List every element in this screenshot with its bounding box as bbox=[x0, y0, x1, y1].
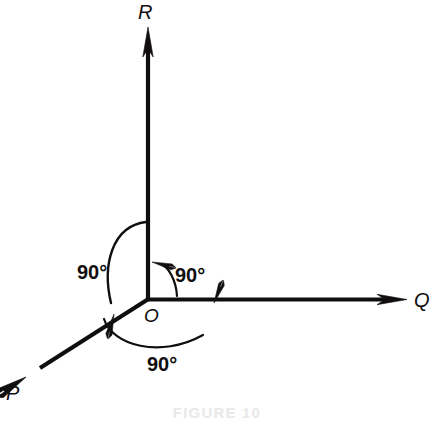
axes-diagram: R Q P O 90° 90° 90° bbox=[0, 0, 434, 421]
origin-label-O: O bbox=[144, 305, 159, 326]
figure-caption: FIGURE 10 bbox=[0, 404, 434, 421]
axis-P bbox=[0, 298, 150, 401]
angle-arc-R-P-path bbox=[108, 222, 146, 303]
angle-arc-R-P bbox=[105, 222, 146, 340]
angle-label-R-P: 90° bbox=[77, 261, 107, 283]
axis-R-arrowhead bbox=[143, 27, 153, 61]
axis-label-R: R bbox=[138, 1, 152, 23]
axis-P-line bbox=[40, 298, 150, 368]
angle-arc-Q-R bbox=[151, 259, 177, 296]
figure-container: R Q P O 90° 90° 90° FIGURE 10 bbox=[0, 0, 434, 421]
axis-label-Q: Q bbox=[414, 289, 430, 311]
angle-arc-Q-R-arrowhead-group bbox=[151, 259, 176, 271]
axis-label-P: P bbox=[6, 382, 20, 404]
angle-label-P-Q: 90° bbox=[147, 353, 177, 375]
axis-Q bbox=[146, 294, 407, 304]
axis-Q-arrowhead bbox=[373, 294, 407, 304]
axis-R bbox=[143, 27, 153, 300]
angle-label-Q-R: 90° bbox=[175, 264, 205, 286]
angle-arc-Q-R-arrowhead bbox=[151, 259, 176, 271]
